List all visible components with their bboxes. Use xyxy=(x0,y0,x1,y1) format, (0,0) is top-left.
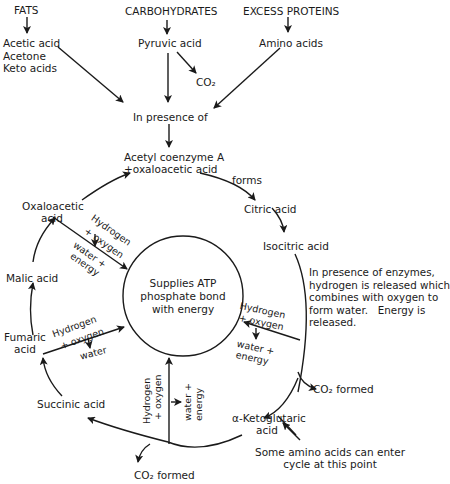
center-line2: phosphate bond xyxy=(128,290,238,303)
arrow-pyruvic-to-co2 xyxy=(177,52,196,73)
enzymes-note: In presence of enzymes, hydrogen is rele… xyxy=(309,266,450,329)
arc-isocitric-down xyxy=(295,254,306,392)
proteins-title: EXCESS PROTEINS xyxy=(243,5,339,17)
amino-entry-line2: cycle at this point xyxy=(250,458,410,470)
citric-acid-label: Citric acid xyxy=(244,203,297,215)
presence-label: In presence of xyxy=(133,111,208,123)
forms-label: forms xyxy=(232,174,262,186)
succinic-acid-label: Succinic acid xyxy=(37,398,105,410)
center-line3: with energy xyxy=(128,303,238,316)
oxaloacetic-acid-label: Oxaloacetic acid xyxy=(22,200,82,224)
ketoglutaric-line2: acid xyxy=(232,424,302,436)
amino-acids-label: Amino acids xyxy=(259,37,323,49)
co2-right-label: CO₂ formed xyxy=(313,383,374,395)
fats-title: FATS xyxy=(14,4,39,16)
arrow-to-succinic xyxy=(88,418,168,442)
oxaloacetic-add-label: +oxaloacetic acid xyxy=(124,163,218,175)
reaction-succinic-h: Hydrogen xyxy=(142,378,153,424)
malic-acid-label: Malic acid xyxy=(6,272,58,284)
arrow-oxaloacetic-to-acetyl xyxy=(82,173,130,200)
arrow-fumaric-to-malic xyxy=(31,283,34,335)
oxaloacetic-line2: acid xyxy=(22,212,82,224)
fumaric-acid-label: Fumaric acid xyxy=(2,331,48,355)
isocitric-acid-label: Isocitric acid xyxy=(263,240,329,252)
reaction-succinic-w2: energy xyxy=(194,388,205,421)
pyruvic-acid-label: Pyruvic acid xyxy=(138,37,202,49)
reaction-succinic-w1: water + xyxy=(183,383,194,421)
arrow-amino-to-presence xyxy=(214,48,280,108)
arrow-succinic-to-fumaric xyxy=(43,358,62,396)
acetyl-coa-label: Acetyl coenzyme A xyxy=(124,151,224,163)
ketoglutaric-line1: α-Ketoglutaric xyxy=(232,412,302,424)
arrow-co2-bottom xyxy=(138,444,150,462)
acetone-label: Acetone xyxy=(3,50,46,62)
ketoglutaric-label: α-Ketoglutaric acid xyxy=(232,412,302,436)
oxaloacetic-line1: Oxaloacetic xyxy=(22,200,82,212)
arc-ketoglutaric-to-bottom xyxy=(168,435,242,447)
carbohydrates-title: CARBOHYDRATES xyxy=(125,5,217,17)
arrow-malic-to-oxaloacetic xyxy=(33,218,55,262)
co2-bottom-label: CO₂ formed xyxy=(134,469,195,481)
center-line1: Supplies ATP xyxy=(128,277,238,290)
fumaric-line1: Fumaric xyxy=(2,331,48,343)
acetic-acid-label: Acetic acid xyxy=(3,37,60,49)
arrow-fats-to-presence xyxy=(58,47,123,102)
reaction-succinic-o: + oxygen xyxy=(153,374,164,420)
keto-acids-label: Keto acids xyxy=(3,62,57,74)
fumaric-line2: acid xyxy=(2,343,48,355)
center-text: Supplies ATP phosphate bond with energy xyxy=(128,277,238,316)
amino-entry-note: Some amino acids can enter cycle at this… xyxy=(250,446,410,470)
amino-entry-line1: Some amino acids can enter xyxy=(250,446,410,458)
co2-carb-label: CO₂ xyxy=(196,76,216,88)
